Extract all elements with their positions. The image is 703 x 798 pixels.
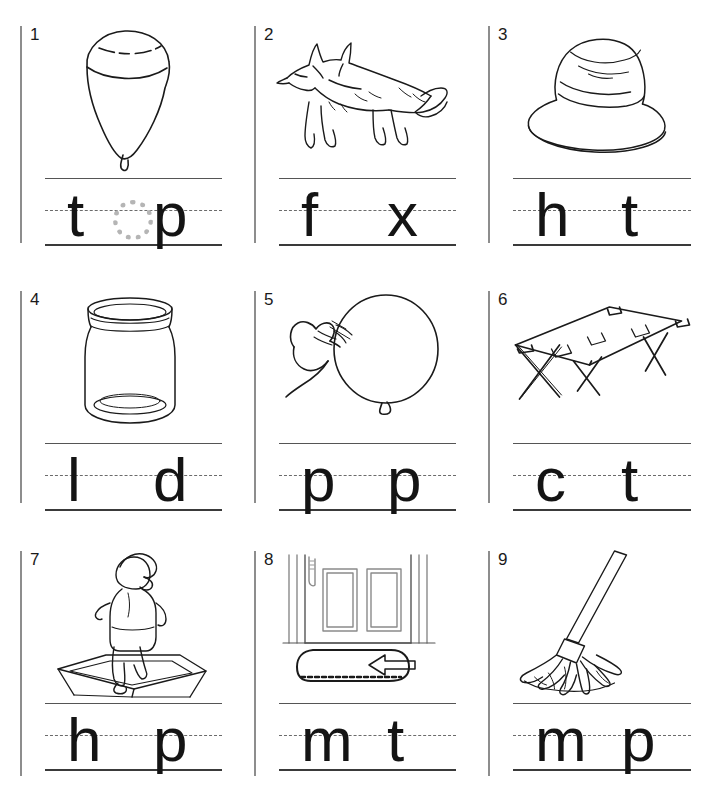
- letter-first: c: [535, 449, 566, 511]
- word-slots: m p: [513, 689, 691, 779]
- worksheet-item: 2: [234, 0, 468, 265]
- letter-first: p: [301, 449, 335, 511]
- worksheet-item: 6: [468, 265, 703, 525]
- picture-spinning-top: [34, 22, 226, 172]
- letter-third: p: [387, 449, 421, 511]
- letter-first: h: [535, 184, 569, 246]
- cell-divider: [20, 26, 22, 243]
- worksheet-item: 4 l: [0, 265, 234, 525]
- worksheet-item: 1 t p: [0, 0, 234, 265]
- cell-divider: [20, 551, 22, 776]
- word-slots: f x: [279, 164, 456, 254]
- cell-divider: [20, 291, 22, 503]
- worksheet-item: 3 h t: [468, 0, 703, 265]
- letter-middle-trace[interactable]: [113, 200, 153, 240]
- cell-divider: [488, 551, 490, 776]
- letter-first: h: [67, 709, 101, 771]
- worksheet-item: 5: [234, 265, 468, 525]
- cell-divider: [488, 291, 490, 503]
- letter-middle-blank[interactable]: [345, 198, 389, 242]
- handwriting-lines: l d: [45, 443, 222, 515]
- word-slots: c t: [513, 429, 691, 519]
- handwriting-lines: c t: [513, 443, 691, 515]
- letter-middle-blank[interactable]: [345, 723, 389, 767]
- letter-third: x: [387, 184, 418, 246]
- letter-middle-blank[interactable]: [111, 723, 155, 767]
- worksheet-grid: 1 t p: [0, 0, 703, 798]
- letter-third: t: [621, 449, 638, 511]
- cell-divider: [254, 26, 256, 243]
- letter-first: f: [301, 184, 318, 246]
- letter-third: t: [387, 709, 404, 771]
- worksheet-page: 1 t p: [0, 0, 703, 798]
- cell-divider: [488, 26, 490, 243]
- letter-third: d: [153, 449, 187, 511]
- picture-door-mat-with-arrow: [268, 547, 460, 697]
- picture-mop: [502, 547, 695, 697]
- letter-middle-blank[interactable]: [579, 723, 623, 767]
- picture-hand-popping-balloon: [268, 287, 460, 437]
- picture-jar-lid: [34, 287, 226, 437]
- word-slots: p p: [279, 429, 456, 519]
- worksheet-item: 7: [0, 525, 234, 798]
- handwriting-lines: t p: [45, 178, 222, 250]
- letter-third: p: [621, 709, 655, 771]
- letter-middle-blank[interactable]: [579, 463, 623, 507]
- word-slots: l d: [45, 429, 222, 519]
- letter-third: p: [153, 709, 187, 771]
- picture-fox: [268, 22, 460, 172]
- cell-divider: [254, 291, 256, 503]
- word-slots: t p: [45, 164, 222, 254]
- picture-folding-cot: [502, 287, 695, 437]
- handwriting-lines: m t: [279, 703, 456, 775]
- worksheet-item: 8: [234, 525, 468, 798]
- handwriting-lines: p p: [279, 443, 456, 515]
- word-slots: h t: [513, 164, 691, 254]
- handwriting-lines: f x: [279, 178, 456, 250]
- worksheet-item: 9: [468, 525, 703, 798]
- letter-third: p: [153, 184, 187, 246]
- handwriting-lines: h t: [513, 178, 691, 250]
- handwriting-lines: h p: [45, 703, 222, 775]
- picture-child-hopping: [34, 547, 226, 697]
- word-slots: m t: [279, 689, 456, 779]
- letter-first: t: [67, 184, 84, 246]
- picture-hat: [502, 22, 695, 172]
- letter-middle-blank[interactable]: [111, 463, 155, 507]
- letter-first: l: [67, 449, 81, 511]
- letter-middle-blank[interactable]: [579, 198, 623, 242]
- cell-divider: [254, 551, 256, 776]
- letter-middle-blank[interactable]: [345, 463, 389, 507]
- word-slots: h p: [45, 689, 222, 779]
- handwriting-lines: m p: [513, 703, 691, 775]
- letter-third: t: [621, 184, 638, 246]
